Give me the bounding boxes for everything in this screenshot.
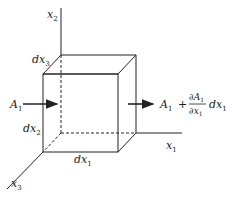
svg-text:∂x1: ∂x1 — [189, 106, 203, 117]
svg-text:∂A1: ∂A1 — [189, 92, 204, 103]
cube-top-face — [43, 55, 136, 74]
svg-text:dx1: dx1 — [209, 98, 227, 113]
dx1-label: dx1 — [74, 153, 92, 168]
cube-front-face — [43, 74, 118, 152]
inflow-label: A1 — [9, 98, 22, 113]
svg-text:A1: A1 — [159, 98, 172, 113]
x3-axis-label: x3 — [11, 177, 22, 192]
left-bottom-depth-edge-hidden — [43, 133, 61, 152]
svg-text:+: + — [178, 98, 187, 111]
outflow-expression: A1 + ∂A1 ∂x1 dx1 — [159, 92, 227, 117]
cube-right-bottom-depth-edge — [118, 133, 136, 152]
dx3-label: dx3 — [32, 53, 50, 68]
cube-diagram: x2 x1 x3 dx3 dx2 dx1 A1 A1 + ∂A1 ∂x1 dx1 — [0, 0, 233, 198]
x1-axis-label: x1 — [166, 139, 177, 154]
x2-axis-label: x2 — [47, 8, 58, 23]
dx2-label: dx2 — [23, 122, 41, 137]
